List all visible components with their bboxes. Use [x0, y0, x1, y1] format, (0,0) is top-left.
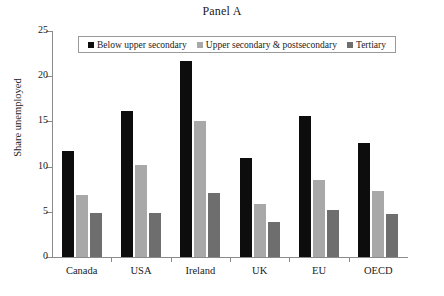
y-axis-line — [52, 31, 53, 257]
bar[interactable] — [194, 121, 206, 257]
bar[interactable] — [121, 111, 133, 257]
chart-container: Panel A Share unemployed 0510152025 Cana… — [0, 0, 444, 296]
legend-item[interactable]: Below upper secondary — [88, 40, 187, 50]
bar[interactable] — [62, 151, 74, 257]
bar[interactable] — [90, 213, 102, 257]
bar[interactable] — [76, 195, 88, 257]
x-tick-mark — [230, 257, 231, 262]
legend-swatch-icon — [347, 42, 353, 48]
x-tick-mark — [171, 257, 172, 262]
chart-legend: Below upper secondaryUpper secondary & p… — [78, 36, 396, 53]
chart-title: Panel A — [0, 4, 444, 19]
bar[interactable] — [386, 214, 398, 257]
y-tick-label: 20 — [38, 69, 48, 80]
bar[interactable] — [299, 116, 311, 257]
bar[interactable] — [268, 222, 280, 257]
bar[interactable] — [208, 193, 220, 257]
bar[interactable] — [313, 180, 325, 257]
y-tick-label: 0 — [43, 250, 48, 261]
x-tick-mark — [111, 257, 112, 262]
y-tick-label: 10 — [38, 160, 48, 171]
x-tick-mark — [349, 257, 350, 262]
bar[interactable] — [254, 204, 266, 257]
bar-group — [180, 31, 220, 257]
bar[interactable] — [135, 165, 147, 257]
legend-label: Tertiary — [356, 40, 386, 50]
legend-swatch-icon — [197, 42, 203, 48]
x-tick-mark — [289, 257, 290, 262]
bar[interactable] — [180, 61, 192, 257]
legend-swatch-icon — [88, 42, 94, 48]
bar[interactable] — [149, 213, 161, 257]
y-axis-label: Share unemployed — [12, 63, 23, 173]
bar[interactable] — [327, 210, 339, 257]
y-tick-label: 15 — [38, 114, 48, 125]
plot-area: 0510152025 CanadaUSAIrelandUKEUOECD — [52, 31, 408, 257]
legend-label: Below upper secondary — [97, 40, 187, 50]
legend-item[interactable]: Tertiary — [347, 40, 386, 50]
bar-group — [240, 31, 280, 257]
x-category-label: OECD — [333, 265, 423, 276]
legend-label: Upper secondary & postsecondary — [206, 40, 337, 50]
y-tick-label: 25 — [38, 24, 48, 35]
y-tick-label: 5 — [43, 205, 48, 216]
bar-group — [121, 31, 161, 257]
bar[interactable] — [358, 143, 370, 257]
bar-group — [62, 31, 102, 257]
bar-group — [299, 31, 339, 257]
bar[interactable] — [240, 158, 252, 257]
bar[interactable] — [372, 191, 384, 257]
bar-group — [358, 31, 398, 257]
legend-item[interactable]: Upper secondary & postsecondary — [197, 40, 337, 50]
